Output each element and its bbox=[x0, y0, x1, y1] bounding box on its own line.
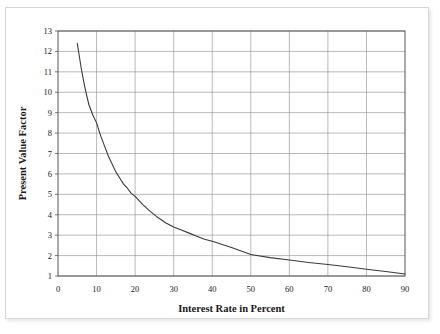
y-tick-label: 11 bbox=[44, 67, 52, 77]
y-tick-label: 8 bbox=[48, 128, 52, 138]
y-tick-label: 9 bbox=[48, 108, 52, 118]
x-tick-label: 80 bbox=[362, 284, 371, 294]
x-axis-tick-labels: 0102030405060708090 bbox=[56, 284, 409, 294]
y-axis-tick-labels: 12345678910111213 bbox=[44, 26, 53, 281]
present-value-factor-chart: 12345678910111213 0102030405060708090 In… bbox=[6, 8, 430, 320]
x-tick-label: 30 bbox=[169, 284, 178, 294]
horizontal-gridlines bbox=[58, 31, 405, 276]
x-tick-label: 0 bbox=[56, 284, 60, 294]
x-tick-label: 50 bbox=[247, 284, 256, 294]
x-axis-title: Interest Rate in Percent bbox=[178, 303, 285, 314]
x-tick-label: 60 bbox=[285, 284, 294, 294]
y-tick-label: 10 bbox=[44, 87, 53, 97]
y-tick-label: 13 bbox=[44, 26, 53, 36]
y-tick-label: 6 bbox=[48, 169, 52, 179]
x-tick-label: 20 bbox=[131, 284, 140, 294]
y-tick-label: 12 bbox=[44, 46, 53, 56]
y-tick-label: 4 bbox=[48, 210, 53, 220]
y-tick-label: 1 bbox=[48, 271, 52, 281]
figure-frame: 12345678910111213 0102030405060708090 In… bbox=[5, 7, 429, 319]
y-tick-label: 3 bbox=[48, 230, 52, 240]
y-tick-label: 5 bbox=[48, 189, 52, 199]
chart-area: 12345678910111213 0102030405060708090 In… bbox=[6, 8, 430, 320]
x-tick-label: 70 bbox=[324, 284, 333, 294]
data-series-line bbox=[77, 43, 405, 274]
y-tick-label: 2 bbox=[48, 251, 52, 261]
x-tick-label: 90 bbox=[401, 284, 410, 294]
x-tick-label: 40 bbox=[208, 284, 217, 294]
x-tick-label: 10 bbox=[92, 284, 101, 294]
y-axis-title: Present Value Factor bbox=[17, 106, 28, 200]
y-tick-label: 7 bbox=[48, 149, 52, 159]
